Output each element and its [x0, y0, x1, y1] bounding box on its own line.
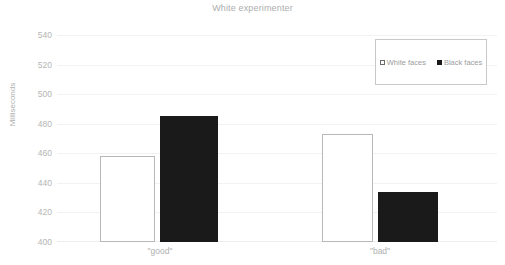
y-tick-label: 460 — [24, 149, 52, 158]
bar-bad-white-faces — [322, 134, 373, 242]
filled-square-icon — [437, 60, 442, 65]
gridline — [57, 94, 497, 95]
bar-chart: White experimenter Milliseconds 540 520 … — [0, 0, 505, 265]
legend-item-black-faces: Black faces — [437, 58, 482, 67]
open-square-icon — [380, 60, 385, 65]
x-tick-label-good: "good" — [120, 246, 200, 256]
bar-good-white-faces — [100, 156, 155, 242]
chart-title: White experimenter — [0, 3, 505, 13]
y-tick-label: 500 — [24, 90, 52, 99]
gridline — [57, 35, 497, 36]
gridline — [57, 124, 497, 125]
y-tick-label: 540 — [24, 31, 52, 40]
x-tick-label-bad: "bad" — [340, 246, 420, 256]
legend-label: Black faces — [444, 58, 482, 67]
gridline — [57, 153, 497, 154]
y-tick-label: 480 — [24, 120, 52, 129]
legend-label: White faces — [387, 58, 426, 67]
y-tick-label: 440 — [24, 179, 52, 188]
y-axis-title: Milliseconds — [8, 65, 17, 145]
y-tick-label: 520 — [24, 61, 52, 70]
bar-good-black-faces — [160, 116, 218, 242]
y-tick-label: 400 — [24, 238, 52, 247]
y-tick-label: 420 — [24, 208, 52, 217]
chart-legend: White faces Black faces — [375, 39, 487, 85]
legend-item-white-faces: White faces — [380, 58, 426, 67]
bar-bad-black-faces — [378, 192, 438, 242]
